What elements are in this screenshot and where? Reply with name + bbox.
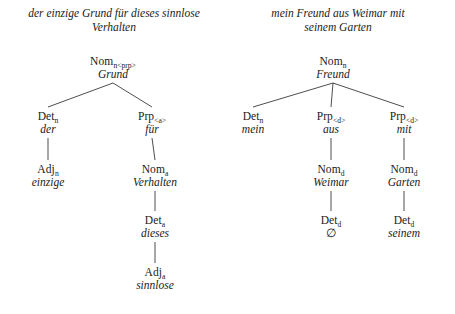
- node-r-nom-garten-subscript: d: [414, 169, 418, 178]
- tree-edge: [48, 83, 113, 107]
- node-r-det-null-subscript: d: [338, 220, 342, 229]
- node-r-root-category-text: Nom: [319, 55, 342, 67]
- node-l-adj-category-text: Adj: [37, 163, 55, 175]
- node-l-prp-category: Prp<a>: [138, 110, 166, 123]
- node-r-root: Nomn Freund: [316, 55, 349, 81]
- node-l-adj-a-word: sinnlose: [136, 279, 174, 292]
- node-r-prp-mit-category-text: Prp: [390, 110, 406, 122]
- node-r-det-seinem: Detd seinem: [388, 214, 420, 240]
- tree-left-caption: der einzige Grund für dieses sinnlose Ve…: [10, 6, 218, 34]
- node-l-det-subscript: n: [55, 116, 59, 125]
- node-r-nom-garten: Nomd Garten: [388, 163, 421, 189]
- node-l-det-a-subscript: a: [162, 220, 165, 229]
- node-l-adj-a: Adja sinnlose: [136, 266, 174, 292]
- node-l-det-category-text: Det: [38, 110, 55, 122]
- node-r-det-null-category-text: Det: [321, 214, 338, 226]
- node-l-nom-a-category: Noma: [133, 163, 177, 176]
- node-l-nom-a: Noma Verhalten: [133, 163, 177, 189]
- node-l-adj-category: Adjn: [32, 163, 65, 176]
- node-r-det-seinem-word: seinem: [388, 227, 420, 240]
- tree-edge-layer: [0, 0, 455, 314]
- node-l-adj-subscript: n: [55, 169, 59, 178]
- node-r-nom-weimar-subscript: d: [341, 169, 345, 178]
- node-l-prp-category-text: Prp: [138, 110, 154, 122]
- node-l-adj: Adjn einzige: [32, 163, 65, 189]
- node-r-nom-garten-category-text: Nom: [390, 163, 413, 175]
- node-r-det: Detn mein: [242, 110, 264, 136]
- node-r-prp-mit-subscript: <d>: [406, 116, 418, 125]
- node-r-prp-mit: Prp<d> mit: [390, 110, 419, 136]
- node-r-nom-garten-category: Nomd: [388, 163, 421, 176]
- tree-left-caption-line-1: der einzige Grund für dieses sinnlose: [10, 6, 218, 20]
- node-r-det-subscript: n: [260, 116, 264, 125]
- node-r-root-category: Nomn: [316, 55, 349, 68]
- node-r-root-subscript: n: [343, 61, 347, 70]
- node-l-adj-a-category: Adja: [136, 266, 174, 279]
- node-l-det-a: Deta dieses: [141, 214, 169, 240]
- node-r-det-seinem-category: Detd: [388, 214, 420, 227]
- tree-edge: [113, 83, 152, 107]
- tree-edge: [152, 138, 155, 160]
- node-r-prp-mit-category: Prp<d>: [390, 110, 419, 123]
- node-l-nom-a-category-text: Nom: [142, 163, 165, 175]
- node-l-det: Detn der: [38, 110, 59, 136]
- tree-edge: [331, 83, 333, 107]
- node-l-nom-a-word: Verhalten: [133, 176, 177, 189]
- node-r-prp-aus-category-text: Prp: [317, 110, 333, 122]
- node-r-det-seinem-category-text: Det: [394, 214, 411, 226]
- node-l-det-category: Detn: [38, 110, 59, 123]
- node-l-prp: Prp<a> für: [138, 110, 166, 136]
- node-r-prp-aus-subscript: <d>: [333, 116, 345, 125]
- node-l-prp-subscript: <a>: [154, 116, 166, 125]
- node-r-nom-weimar-category: Nomd: [313, 163, 348, 176]
- tree-left-caption-line-2: Verhalten: [10, 20, 218, 34]
- node-r-det-seinem-subscript: d: [411, 220, 415, 229]
- node-r-prp-aus-category: Prp<d>: [317, 110, 346, 123]
- node-l-root-subscript: n<prp>: [113, 61, 136, 70]
- node-l-nom-a-subscript: a: [165, 169, 168, 178]
- tree-right-caption-line-2: seinem Garten: [248, 20, 428, 34]
- node-l-det-a-category: Deta: [141, 214, 169, 227]
- tree-diagram-canvas: der einzige Grund für dieses sinnlose Ve…: [0, 0, 455, 314]
- tree-right-caption-line-1: mein Freund aus Weimar mit: [248, 6, 428, 20]
- node-r-nom-weimar: Nomd Weimar: [313, 163, 348, 189]
- tree-edge: [333, 83, 404, 107]
- tree-edge: [253, 83, 333, 107]
- tree-right-caption: mein Freund aus Weimar mit seinem Garten: [248, 6, 428, 34]
- node-l-root-category-text: Nom: [90, 55, 113, 67]
- node-r-det-category: Detn: [242, 110, 264, 123]
- node-l-adj-a-category-text: Adj: [145, 266, 163, 278]
- node-l-root: Nomn<prp> Grund: [90, 55, 136, 81]
- node-l-adj-word: einzige: [32, 176, 65, 189]
- node-l-det-a-category-text: Det: [145, 214, 162, 226]
- node-r-det-null: Detd ∅: [321, 214, 342, 240]
- node-l-root-category: Nomn<prp>: [90, 55, 136, 68]
- node-r-prp-aus: Prp<d> aus: [317, 110, 346, 136]
- node-l-adj-a-subscript: a: [162, 272, 165, 281]
- node-r-det-category-text: Det: [243, 110, 260, 122]
- node-r-nom-weimar-category-text: Nom: [317, 163, 340, 175]
